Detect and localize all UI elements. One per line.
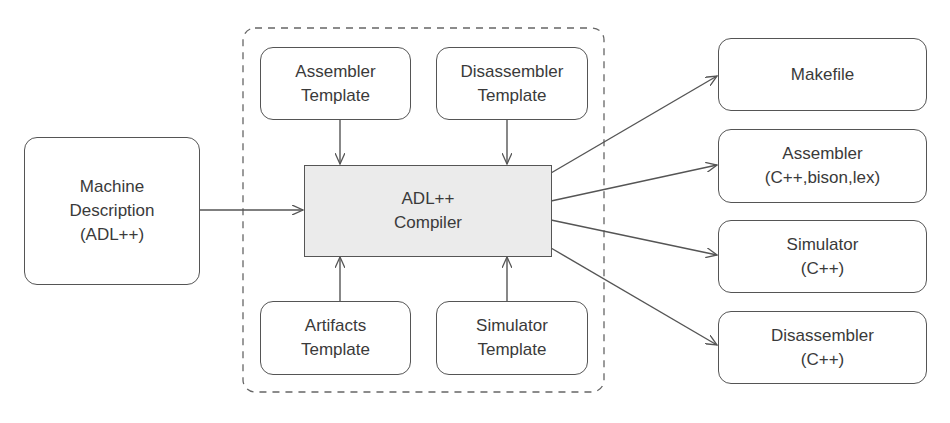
- box-label: (C++): [801, 257, 844, 281]
- box-label: Disassembler: [771, 324, 874, 348]
- box-label: Assembler: [782, 142, 862, 166]
- disassembler-template-box: Disassembler Template: [436, 47, 588, 120]
- box-label: Template: [478, 84, 547, 108]
- box-label: Compiler: [394, 211, 462, 235]
- adl-compiler-box: ADL++ Compiler: [304, 165, 552, 257]
- box-label: (ADL++): [80, 223, 144, 247]
- box-label: Template: [301, 338, 370, 362]
- arrow-compiler-to-simulator: [551, 220, 717, 255]
- artifacts-template-box: Artifacts Template: [260, 301, 411, 375]
- box-label: Template: [478, 338, 547, 362]
- box-label: Assembler: [295, 60, 375, 84]
- assembler-template-box: Assembler Template: [260, 47, 411, 120]
- box-label: Template: [301, 84, 370, 108]
- arrow-compiler-to-assembler: [551, 165, 717, 201]
- box-label: Simulator: [787, 233, 859, 257]
- box-label: Machine: [80, 175, 144, 199]
- disassembler-output-box: Disassembler (C++): [718, 311, 927, 384]
- box-label: Description: [69, 199, 154, 223]
- box-label: Makefile: [791, 63, 854, 87]
- box-label: (C++,bison,lex): [765, 166, 880, 190]
- box-label: ADL++: [402, 187, 455, 211]
- box-label: (C++): [801, 348, 844, 372]
- box-label: Disassembler: [461, 60, 564, 84]
- assembler-output-box: Assembler (C++,bison,lex): [718, 129, 927, 203]
- box-label: Artifacts: [305, 314, 366, 338]
- simulator-template-box: Simulator Template: [436, 301, 588, 375]
- simulator-output-box: Simulator (C++): [718, 220, 927, 293]
- box-label: Simulator: [476, 314, 548, 338]
- machine-description-box: Machine Description (ADL++): [24, 137, 200, 285]
- makefile-output-box: Makefile: [718, 38, 927, 111]
